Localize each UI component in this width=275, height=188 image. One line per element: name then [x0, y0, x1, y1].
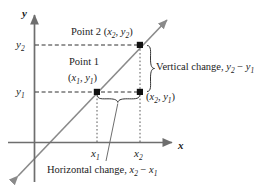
foot-close-paren: ) [172, 91, 176, 102]
point-1-marker [94, 89, 100, 95]
foot-point-marker [137, 89, 143, 95]
point-2-title: Point 2 [71, 26, 101, 37]
vertical-change-prefix: Vertical change, [156, 61, 226, 72]
y-axis-label: y [22, 8, 27, 19]
x-tick-x2-sub: 2 [139, 153, 143, 162]
y-tick-y1-sub: 1 [21, 91, 25, 100]
horizontal-change-prefix: Horizontal change, [47, 164, 130, 175]
x-axis-label: x [178, 140, 184, 151]
point-1-close-paren: ) [94, 72, 98, 83]
horizontal-change-x1-sub: 1 [154, 169, 158, 178]
x-tick-label-x1: x1 [91, 148, 100, 162]
horizontal-change-caption: Horizontal change, x2 − x1 [47, 165, 158, 178]
point-2-close-paren: ) [129, 26, 133, 37]
point-2-marker [137, 42, 143, 48]
slope-diagram-figure: y x y2 y1 x1 x2 Point 2 (x2, y2) Point 1… [0, 0, 275, 188]
y-tick-label-y1: y1 [16, 86, 25, 100]
point-2-label: Point 2 (x2, y2) [71, 27, 133, 40]
x-tick-x1-sub: 1 [96, 153, 100, 162]
x-tick-label-x2: x2 [134, 148, 143, 162]
foot-point-coords: (x2, y1) [146, 92, 175, 105]
horizontal-change-leader [106, 104, 118, 162]
point-1-coords: (x1, y1) [68, 73, 97, 86]
vertical-change-brace [147, 46, 155, 92]
vertical-change-caption: Vertical change, y2 − y1 [156, 62, 254, 75]
vertical-change-y1-sub: 1 [251, 66, 255, 75]
y-tick-y2-sub: 2 [21, 44, 25, 53]
horizontal-change-brace [98, 96, 140, 103]
y-tick-label-y2: y2 [16, 39, 25, 53]
point-1-title: Point 1 [69, 57, 99, 68]
